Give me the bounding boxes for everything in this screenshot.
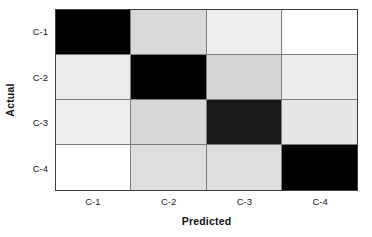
x-tick-label: C-1 [55, 193, 131, 210]
matrix-cell [282, 10, 357, 55]
matrix-cell [131, 145, 206, 190]
x-axis-title: Predicted [55, 213, 358, 229]
y-axis-tick-labels: C-1 C-2 C-3 C-4 [20, 9, 53, 191]
matrix-cell [131, 100, 206, 145]
matrix-cell [207, 100, 282, 145]
matrix-cell [56, 100, 131, 145]
matrix-cell [207, 145, 282, 190]
matrix-grid [55, 9, 358, 191]
matrix-cell [282, 100, 357, 145]
x-axis-tick-labels: C-1 C-2 C-3 C-4 [55, 193, 358, 210]
y-tick-label: C-2 [20, 55, 53, 101]
y-tick-label: C-4 [20, 146, 53, 192]
matrix-cell [282, 55, 357, 100]
matrix-cell [207, 55, 282, 100]
x-tick-label: C-4 [282, 193, 358, 210]
y-tick-label: C-1 [20, 9, 53, 55]
matrix-cell [56, 55, 131, 100]
matrix-cell [56, 10, 131, 55]
y-axis-title-label: Actual [4, 83, 16, 116]
y-tick-label: C-3 [20, 100, 53, 146]
matrix-cell [282, 145, 357, 190]
matrix-cell [131, 55, 206, 100]
confusion-matrix-figure: Actual C-1 C-2 C-3 C-4 C-1 C-2 C-3 C-4 P… [0, 0, 372, 237]
y-axis-title: Actual [0, 0, 20, 200]
x-tick-label: C-2 [131, 193, 207, 210]
matrix-cell [56, 145, 131, 190]
matrix-cell [131, 10, 206, 55]
x-tick-label: C-3 [207, 193, 283, 210]
matrix-cell [207, 10, 282, 55]
